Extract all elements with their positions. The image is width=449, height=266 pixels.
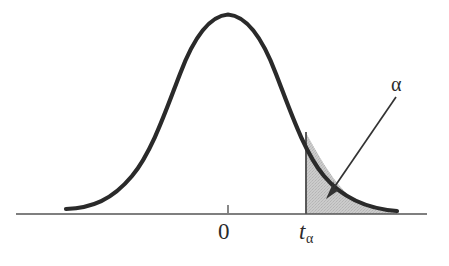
shaded-tail-region [300, 125, 405, 220]
alpha-annotation-arrow [326, 97, 396, 199]
critical-value-subscript: α [306, 231, 313, 246]
tail-area-label-alpha: α [391, 74, 401, 94]
arrow-shaft [331, 97, 396, 192]
critical-value-letter: t [299, 219, 305, 244]
tail-area-texture [300, 125, 405, 220]
axis-label-zero: 0 [218, 220, 230, 243]
axis-label-critical-value: tα [299, 220, 313, 246]
t-distribution-figure: 0 tα α [0, 0, 449, 266]
bell-curve [66, 15, 397, 212]
